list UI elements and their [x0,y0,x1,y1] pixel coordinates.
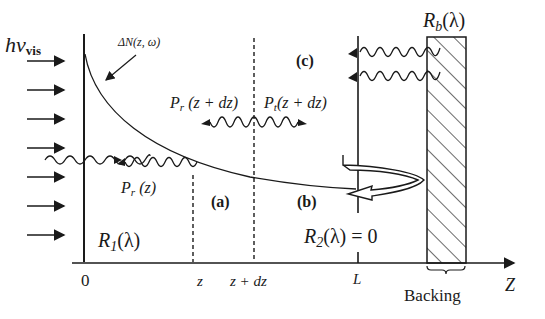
pr-zdz-label: Pr (z + dz) [170,95,238,113]
incident-light-arrows [27,61,64,235]
pr-z-label: Pr (z) [121,180,156,198]
delta-n-curve [85,54,356,189]
tick-L: L [353,272,361,287]
hv-text: hν [5,32,26,57]
r2-arg: (λ) = 0 [323,225,377,247]
pr-zdz-arrowhead [201,119,210,126]
pr-z-p: P [121,179,131,196]
wave-c-bottom-arrowhead [348,72,357,82]
vis-subscript: vis [26,43,41,58]
pt-zdz-p: P [264,94,274,111]
z-axis-label: Z [505,276,515,294]
backing-brace [427,266,465,274]
r2-label: R2(λ) = 0 [304,226,378,250]
pt-zdz-arrowhead [298,119,307,126]
pr-z-arg: (z) [135,179,156,196]
region-a-label: (a) [211,194,230,210]
r1-r: R [98,229,110,251]
wave-c-top-arrowhead [348,48,357,58]
rb-arg: (λ) [442,9,465,31]
delta-n-label: ΔN(z, ω) [118,36,160,48]
rb-label: Rb(λ) [423,10,465,34]
reflection-uturn-arrow [343,155,424,200]
tick-z-dz: z + dz [230,274,267,289]
region-b-label: (b) [297,194,317,210]
region-c-label: (c) [296,53,314,69]
backing-label: Backing [404,287,461,304]
diagram: hνvis ΔN(z, ω) (c) (a) (b) Pr (z) Pr (z … [0,0,545,319]
backing-layer [427,37,466,263]
incident-light-label: hνvis [5,34,41,57]
rb-r: R [423,9,435,31]
pr-zdz-arg: (z + dz) [184,94,238,111]
pr-zdz-p: P [170,94,180,111]
tick-z: z [197,274,203,289]
r2-r: R [304,225,316,247]
r1-label: R1(λ) [98,230,140,254]
delta-n-pointer [106,55,136,80]
r1-arg: (λ) [117,229,140,251]
tick-0: 0 [81,272,90,289]
pt-zdz-label: Pt(z + dz) [264,95,327,113]
pt-zdz-arg: (z + dz) [277,94,327,111]
